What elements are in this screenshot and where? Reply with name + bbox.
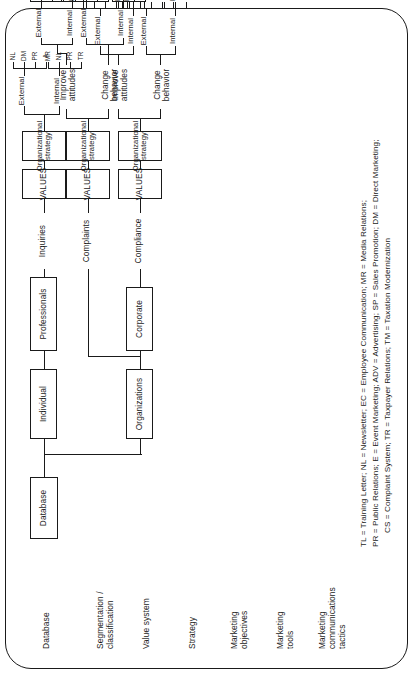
brC-e-stem xyxy=(24,69,25,76)
brB-cbi-t1 xyxy=(123,0,124,2)
linkB-cb-out xyxy=(108,45,109,65)
brA-iae-t5 xyxy=(127,2,128,9)
brB-cbi-t3 xyxy=(145,0,146,2)
brB-cbi-t2 xyxy=(134,0,135,2)
link-database-bus xyxy=(44,455,45,477)
tactic-leaf: TR xyxy=(78,49,84,63)
brC-e-spine xyxy=(13,68,46,69)
row-label-objectives: Marketing objectives xyxy=(230,557,250,649)
tactic-leaf: MR xyxy=(170,0,176,3)
brA-iae-stem xyxy=(100,9,101,16)
legend-line-3: CS = Complaint System; TR = Taxpayer Rel… xyxy=(382,13,393,533)
brA-iae-t3 xyxy=(105,2,106,9)
node-strategy-inquiries: Organizational strategy xyxy=(22,131,66,161)
link-organizations-corporate xyxy=(140,351,141,369)
brA-cbe-t5 xyxy=(173,2,174,9)
node-database: Database xyxy=(30,477,58,539)
tactic-leaf: PR xyxy=(159,0,165,3)
row-label-tools: Marketing tools xyxy=(276,557,296,649)
tool-internal-A-cb: Internal xyxy=(169,14,178,48)
linkC-strategy-out xyxy=(44,115,45,131)
link-complaints-values xyxy=(88,199,89,213)
linkA-strategy-out xyxy=(140,119,141,131)
tool-external-B-cb: External xyxy=(80,6,89,40)
node-strategy-complaints: Organizational strategy xyxy=(66,131,110,161)
node-values-complaints: VALUES xyxy=(66,169,110,199)
brB-iae-spine xyxy=(30,1,63,2)
link-inquiries-values xyxy=(44,199,45,213)
brB-cbi-stem xyxy=(123,2,124,8)
linkA-obj-change xyxy=(160,109,161,119)
brB-iae-t0 xyxy=(30,0,31,2)
brA-cbe-t4 xyxy=(162,2,163,9)
legend-line-2: PR = Public Relations; E = Event Marketi… xyxy=(370,17,381,547)
segment-compliance: Compliance xyxy=(134,213,143,269)
row-label-value-system: Value system xyxy=(142,557,152,649)
row-label-segmentation: Segmentation / classification xyxy=(96,557,116,649)
brA-iai-stem xyxy=(133,9,134,16)
objective-change-behavior-compliance: Change behavior xyxy=(153,61,172,109)
linkB-cb-split xyxy=(86,44,124,45)
tool-internal-B-ia: Internal xyxy=(66,6,75,40)
objective-change-behavior-complaints: Change behavior xyxy=(101,61,120,109)
brB-iae-t2 xyxy=(52,0,53,2)
brA-cbe-t3 xyxy=(151,2,152,9)
tactic-leaf: A xyxy=(43,49,49,63)
node-individual: Individual xyxy=(30,369,57,439)
node-professionals: Professionals xyxy=(30,277,57,351)
node-values-inquiries: VALUES xyxy=(22,169,66,199)
link-bus-organizations xyxy=(140,439,141,455)
diagram-canvas: Database Segmentation / classification V… xyxy=(0,0,417,675)
brA-iai-t1 xyxy=(133,2,134,9)
figure-page: Database Segmentation / classification V… xyxy=(0,0,417,675)
rotation-wrapper: Database Segmentation / classification V… xyxy=(0,0,417,675)
brB-iai-t2 xyxy=(83,0,84,2)
tactic-leaf: E xyxy=(148,0,154,3)
brC-e-t1 xyxy=(24,62,25,69)
tool-external-B-ia: External xyxy=(35,6,44,40)
tactic-leaf: NL xyxy=(10,49,16,63)
linkA-ia-split xyxy=(100,54,134,55)
brB-cbi-spine xyxy=(112,1,145,2)
row-label-database: Database xyxy=(42,557,52,649)
link-professionals-inquiries xyxy=(44,269,45,277)
link-individual-professionals xyxy=(44,351,45,369)
brA-iai-t2 xyxy=(144,2,145,9)
row-label-tactics: Marketing communications tactics xyxy=(318,557,348,649)
brC-i-spine xyxy=(48,68,81,69)
brA-iae-t2 xyxy=(94,2,95,9)
legend-line-1: TL = Training Letter; NL = Newsletter; E… xyxy=(358,17,369,547)
brC-i-stem xyxy=(59,69,60,76)
tactic-leaf: PR xyxy=(67,49,73,63)
brB-cbi-t0 xyxy=(112,0,113,2)
brB-iai-t1 xyxy=(72,0,73,2)
bus-complaints-horiz xyxy=(88,269,89,357)
tactic-leaf: DM xyxy=(21,49,27,63)
brC-i-t0 xyxy=(48,62,49,69)
brB-iae-t1 xyxy=(41,0,42,2)
link-compliance-values xyxy=(140,199,141,213)
brA-cbi-t1 xyxy=(175,2,176,9)
segment-complaints: Complaints xyxy=(82,213,91,269)
linkA-obj-split xyxy=(118,118,161,119)
brC-e-t3 xyxy=(46,62,47,69)
brB-iai-stem xyxy=(72,2,73,8)
node-corporate: Corporate xyxy=(126,287,153,351)
link-corporate-compliance xyxy=(140,269,141,287)
linkB-obj-change xyxy=(108,109,109,119)
brB-cbe-t2 xyxy=(97,0,98,2)
row-label-strategy: Strategy xyxy=(188,557,198,649)
brA-cbi-t2 xyxy=(186,2,187,9)
brB-cbe-t3 xyxy=(108,0,109,2)
brA-cbi-stem xyxy=(175,9,176,16)
brC-e-t2 xyxy=(35,62,36,69)
linkA-cb-split xyxy=(146,54,176,55)
bus-complaints-vert xyxy=(88,356,140,357)
linkC-split xyxy=(24,114,60,115)
brB-iae-t3 xyxy=(63,0,64,2)
linkA-cb-out xyxy=(160,55,161,65)
tactic-leaf: PR xyxy=(32,49,38,63)
linkB-obj-split xyxy=(66,118,109,119)
tool-internal-A-ia: Internal xyxy=(127,14,136,48)
brA-cbe-stem xyxy=(146,9,147,16)
